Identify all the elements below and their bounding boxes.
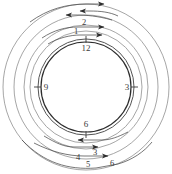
outer-ring-1 [3, 4, 169, 170]
callout-5: 5 [86, 159, 90, 169]
ring-group [3, 4, 169, 170]
leader-line-b5 [118, 142, 152, 164]
leader-line-b2 [44, 136, 74, 147]
figure-canvas: 12 3 6 9 2 1 [0, 0, 172, 174]
clock-label-6: 6 [84, 119, 89, 129]
clock-label-9: 9 [44, 82, 49, 92]
callout-2: 2 [82, 17, 86, 27]
arrow-top-1-right [30, 4, 104, 22]
top-annotation-group [30, 4, 118, 44]
concentric-circle-diagram: 12 3 6 9 2 1 [0, 0, 172, 174]
clock-label-12: 12 [82, 43, 91, 53]
callout-6: 6 [110, 158, 114, 168]
leader-line-1 [48, 35, 80, 44]
callout-4: 4 [76, 152, 81, 162]
clock-label-3: 3 [125, 82, 130, 92]
callout-3: 3 [93, 147, 97, 157]
callout-1: 1 [74, 26, 78, 36]
